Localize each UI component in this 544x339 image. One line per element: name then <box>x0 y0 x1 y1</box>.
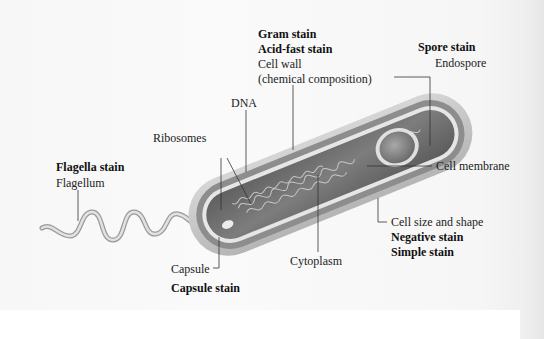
label-endospore: Endospore <box>435 56 486 71</box>
label-dna: DNA <box>231 96 257 111</box>
label-flagella-stain: Flagella stain <box>56 160 124 175</box>
label-ribosomes: Ribosomes <box>153 131 206 146</box>
label-cytoplasm: Cytoplasm <box>290 254 342 269</box>
label-cell-wall: Cell wall <box>258 57 302 72</box>
label-flagellum: Flagellum <box>56 176 105 191</box>
label-capsule: Capsule <box>171 262 210 277</box>
label-simple-stain: Simple stain <box>391 245 454 260</box>
label-cell-membrane: Cell membrane <box>436 159 510 174</box>
label-spore-stain: Spore stain <box>418 40 475 55</box>
flagellum <box>42 212 200 240</box>
label-cell-wall-note: (chemical composition) <box>258 72 372 87</box>
label-acid-fast-stain: Acid-fast stain <box>258 42 332 57</box>
label-gram-stain: Gram stain <box>258 27 316 42</box>
label-capsule-stain: Capsule stain <box>171 281 240 296</box>
label-cell-size-shape: Cell size and shape <box>391 215 483 230</box>
label-negative-stain: Negative stain <box>391 230 463 245</box>
